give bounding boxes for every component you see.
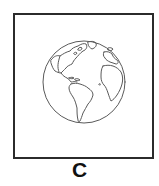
figure-label: C (0, 158, 159, 182)
